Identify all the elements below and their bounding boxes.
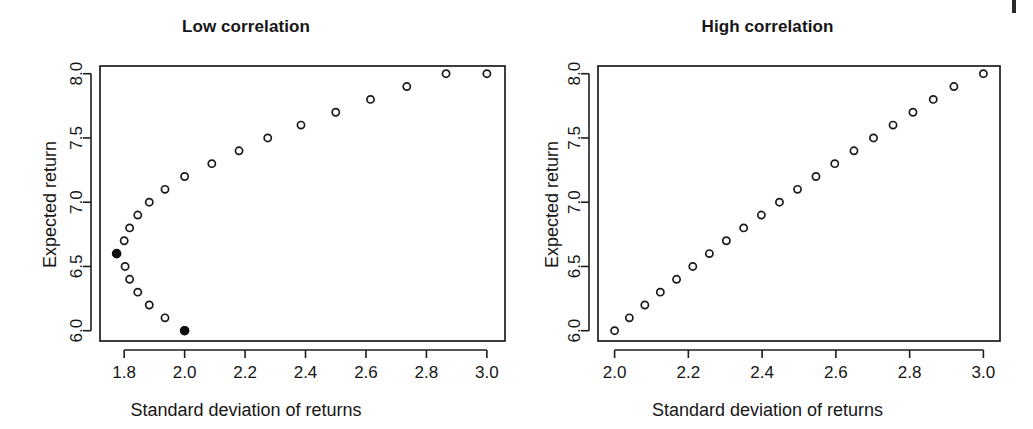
data-point-low bbox=[297, 122, 304, 129]
y-tick-label-low-1: 6.5 bbox=[68, 255, 87, 279]
data-point-high bbox=[794, 186, 801, 193]
data-point-high bbox=[980, 70, 987, 77]
x-tick-label-low-1: 2.0 bbox=[173, 363, 197, 382]
y-tick-label-high-2: 7.0 bbox=[566, 190, 585, 214]
highlight-point-low-1 bbox=[112, 249, 120, 257]
y-tick-label-high-0: 6.0 bbox=[566, 319, 585, 343]
data-point-high bbox=[776, 199, 783, 206]
x-tick-label-low-4: 2.6 bbox=[354, 363, 378, 382]
data-point-low bbox=[134, 289, 141, 296]
x-tick-label-high-0: 2.0 bbox=[603, 363, 627, 382]
data-point-low bbox=[121, 237, 128, 244]
y-tick-label-low-2: 7.0 bbox=[68, 190, 87, 214]
data-point-low bbox=[483, 70, 490, 77]
plot-area-low: 1.82.02.22.42.62.83.06.06.57.07.58.0 bbox=[0, 0, 516, 429]
data-point-low bbox=[235, 147, 242, 154]
data-point-high bbox=[723, 237, 730, 244]
data-point-high bbox=[909, 109, 916, 116]
y-tick-label-high-3: 7.5 bbox=[566, 126, 585, 150]
data-point-high bbox=[657, 289, 664, 296]
data-point-high bbox=[706, 250, 713, 257]
plot-box-low bbox=[100, 66, 505, 341]
y-tick-label-high-4: 8.0 bbox=[566, 62, 585, 86]
x-tick-label-high-5: 3.0 bbox=[972, 363, 996, 382]
data-point-high bbox=[626, 314, 633, 321]
data-point-high bbox=[689, 263, 696, 270]
data-point-high bbox=[611, 327, 618, 334]
y-tick-label-low-4: 8.0 bbox=[68, 62, 87, 86]
data-point-low bbox=[121, 263, 128, 270]
x-tick-label-high-1: 2.2 bbox=[677, 363, 701, 382]
data-point-low bbox=[181, 173, 188, 180]
data-point-high bbox=[673, 276, 680, 283]
x-tick-label-high-2: 2.4 bbox=[750, 363, 774, 382]
x-tick-label-low-0: 1.8 bbox=[112, 363, 136, 382]
x-tick-label-low-6: 3.0 bbox=[475, 363, 499, 382]
scan-artifact-mark bbox=[1012, 0, 1016, 13]
x-tick-label-low-3: 2.4 bbox=[294, 363, 318, 382]
data-point-low bbox=[134, 211, 141, 218]
y-tick-label-low-3: 7.5 bbox=[68, 126, 87, 150]
data-point-high bbox=[758, 211, 765, 218]
data-point-low bbox=[264, 134, 271, 141]
data-point-low bbox=[332, 109, 339, 116]
y-tick-label-high-1: 6.5 bbox=[566, 255, 585, 279]
data-point-low bbox=[146, 199, 153, 206]
data-point-high bbox=[950, 83, 957, 90]
data-point-low bbox=[161, 186, 168, 193]
data-point-low bbox=[126, 224, 133, 231]
plot-area-high: 2.02.22.42.62.83.06.06.57.07.58.0 bbox=[516, 0, 1033, 429]
data-point-high bbox=[641, 301, 648, 308]
data-point-high bbox=[740, 224, 747, 231]
panel-low-correlation: Low correlation Expected return Standard… bbox=[0, 0, 516, 429]
data-point-low bbox=[367, 96, 374, 103]
data-point-low bbox=[208, 160, 215, 167]
figure-two-panel-efficient-frontier: Low correlation Expected return Standard… bbox=[0, 0, 1033, 429]
data-point-low bbox=[161, 314, 168, 321]
x-tick-label-high-3: 2.6 bbox=[824, 363, 848, 382]
data-point-high bbox=[812, 173, 819, 180]
data-point-low bbox=[403, 83, 410, 90]
panel-high-correlation: High correlation Expected return Standar… bbox=[516, 0, 1033, 429]
plot-box-high bbox=[598, 66, 1000, 341]
data-point-low bbox=[442, 70, 449, 77]
data-point-low bbox=[126, 276, 133, 283]
y-tick-label-low-0: 6.0 bbox=[68, 319, 87, 343]
data-point-high bbox=[850, 147, 857, 154]
highlight-point-low-0 bbox=[180, 327, 188, 335]
data-point-high bbox=[831, 160, 838, 167]
data-point-high bbox=[870, 134, 877, 141]
x-tick-label-low-5: 2.8 bbox=[415, 363, 439, 382]
x-tick-label-high-4: 2.8 bbox=[898, 363, 922, 382]
x-tick-label-low-2: 2.2 bbox=[233, 363, 257, 382]
data-point-high bbox=[889, 122, 896, 129]
data-point-high bbox=[930, 96, 937, 103]
data-point-low bbox=[146, 301, 153, 308]
